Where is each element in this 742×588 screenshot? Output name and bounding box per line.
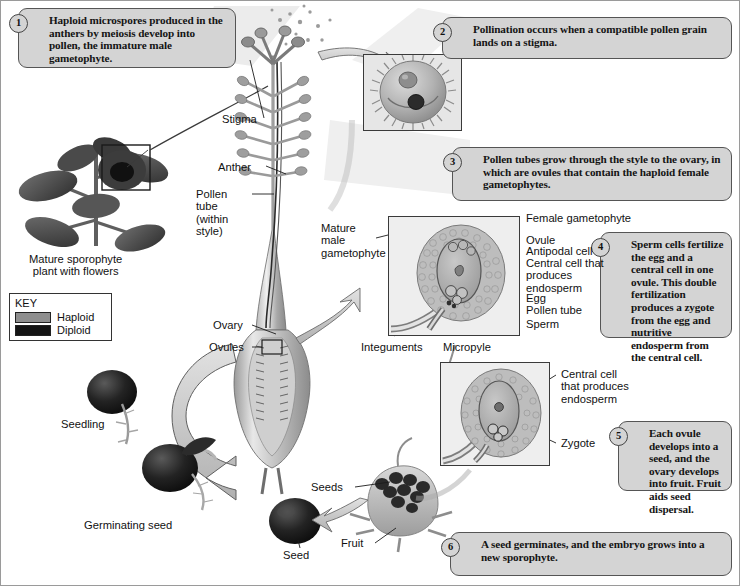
callout-5-number: 5 bbox=[609, 427, 628, 446]
label-fruit: Fruit bbox=[341, 537, 363, 549]
label-central-cell-endosperm: Central cell that produces endosperm bbox=[526, 257, 604, 294]
callout-4-number: 4 bbox=[591, 238, 610, 257]
callout-4: 4 Sperm cells fertilize the egg and a ce… bbox=[600, 232, 732, 338]
label-seeds: Seeds bbox=[311, 481, 343, 493]
label-female-gametophyte: Female gametophyte bbox=[526, 212, 631, 224]
label-central-cell-endosperm-2: Central cell that produces endosperm bbox=[561, 368, 629, 405]
label-seed: Seed bbox=[283, 549, 309, 561]
label-ovary: Ovary bbox=[213, 319, 243, 331]
callout-6-number: 6 bbox=[441, 538, 460, 557]
label-micropyle: Micropyle bbox=[443, 341, 491, 353]
label-anther: Anther bbox=[218, 161, 251, 173]
key-item-diploid: Diploid bbox=[15, 324, 106, 336]
key-label-haploid: Haploid bbox=[57, 311, 94, 323]
callout-1-text: Haploid microspores produced in the anth… bbox=[49, 14, 223, 64]
callout-2-text: Pollination occurs when a compatible pol… bbox=[473, 23, 707, 48]
label-germinating-seed: Germinating seed bbox=[84, 519, 172, 531]
callout-3-number: 3 bbox=[443, 153, 462, 172]
callout-3-text: Pollen tubes grow through the style to t… bbox=[483, 153, 720, 190]
label-sperm: Sperm bbox=[526, 318, 559, 330]
label-seedling: Seedling bbox=[61, 418, 105, 430]
label-integuments: Integuments bbox=[361, 341, 423, 353]
callout-1: 1 Haploid microspores produced in the an… bbox=[18, 8, 236, 68]
label-mature-sporophyte: Mature sporophyte plant with flowers bbox=[29, 253, 122, 278]
callout-2-number: 2 bbox=[433, 23, 452, 42]
callout-5: 5 Each ovule develops into a seed, and t… bbox=[618, 421, 732, 491]
label-pollen-tube: Pollen tube bbox=[526, 304, 582, 316]
key-legend: KEY Haploid Diploid bbox=[9, 293, 112, 341]
key-item-haploid: Haploid bbox=[15, 311, 106, 323]
key-title: KEY bbox=[15, 297, 106, 309]
label-antipodal-cell: Antipodal cell bbox=[526, 245, 593, 257]
key-swatch-diploid bbox=[15, 325, 51, 336]
callout-6: 6 A seed germinates, and the embryo grow… bbox=[450, 532, 732, 576]
callout-2: 2 Pollination occurs when a compatible p… bbox=[442, 17, 732, 59]
callout-6-text: A seed germinates, and the embryo grows … bbox=[481, 538, 705, 563]
label-ovules: Ovules bbox=[209, 341, 244, 353]
key-swatch-haploid bbox=[15, 312, 51, 323]
life-cycle-diagram: 1 Haploid microspores produced in the an… bbox=[0, 0, 742, 588]
label-egg: Egg bbox=[526, 292, 546, 304]
callout-1-number: 1 bbox=[9, 14, 28, 33]
key-label-diploid: Diploid bbox=[57, 324, 91, 336]
label-mature-male-gametophyte: Mature male gametophyte bbox=[321, 222, 386, 259]
label-zygote: Zygote bbox=[561, 437, 595, 449]
callout-3: 3 Pollen tubes grow through the style to… bbox=[452, 147, 732, 201]
label-pollen-tube-within-style: Pollen tube (within style) bbox=[196, 188, 228, 238]
label-stigma: Stigma bbox=[222, 113, 257, 125]
